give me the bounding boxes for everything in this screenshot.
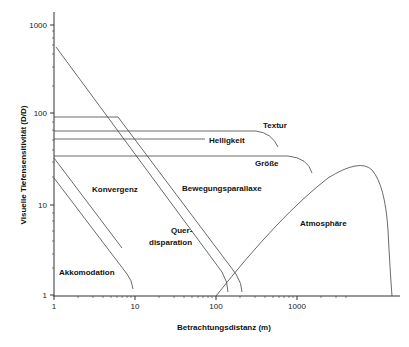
y-tick-10: 10 (38, 201, 47, 210)
y-tick-100: 100 (34, 109, 48, 118)
label-bewegungsparallaxe: Bewegungsparallaxe (182, 184, 262, 193)
x-tick-100: 100 (209, 302, 223, 311)
y-tick-1: 1 (43, 291, 48, 300)
y-tick-1000: 1000 (29, 21, 47, 30)
label-textur: Textur (263, 121, 287, 130)
label-querdisparation-2: disparation (149, 238, 192, 247)
curve-querdisparation (56, 47, 228, 292)
label-atmosphaere: Atmosphäre (300, 219, 347, 228)
curve-konvergenz (54, 158, 122, 248)
curves (54, 47, 392, 296)
label-akkomodation: Akkomodation (59, 268, 115, 277)
x-tick-10: 10 (131, 302, 140, 311)
x-tick-1000: 1000 (288, 302, 306, 311)
label-groesse: Größe (255, 159, 279, 168)
x-axis-title: Betrachtungsdistanz (m) (177, 323, 271, 332)
label-konvergenz: Konvergenz (92, 185, 138, 194)
label-helligkeit: Helligkeit (209, 136, 245, 145)
label-querdisparation-1: Quer- (171, 226, 193, 235)
y-axis-title: Visuelle Tiefensensitivität (D/D) (19, 105, 28, 224)
depth-sensitivity-chart: 1000 100 10 1 1 10 100 1000 Betrachtungs… (0, 0, 409, 347)
x-tick-1: 1 (52, 302, 57, 311)
